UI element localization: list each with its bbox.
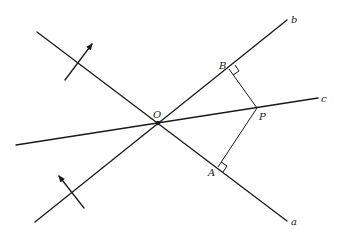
label-line-c: c	[321, 93, 327, 104]
label-line-b: b	[291, 14, 297, 25]
label-line-a: a	[291, 216, 297, 227]
label-a: A	[207, 167, 215, 178]
segment-pa	[218, 108, 257, 167]
point-o-dot	[156, 121, 160, 125]
line-c	[16, 98, 318, 145]
label-o: O	[153, 109, 161, 120]
geometry-diagram: O P B A b a c	[0, 0, 339, 235]
label-b: B	[218, 60, 226, 71]
right-angle-mark-a	[221, 162, 227, 172]
normal-arrow-a-icon	[65, 44, 92, 80]
label-p: P	[258, 111, 266, 122]
normal-arrow-b-icon	[59, 176, 84, 208]
right-angle-mark-b	[233, 65, 239, 75]
line-a	[37, 32, 287, 221]
